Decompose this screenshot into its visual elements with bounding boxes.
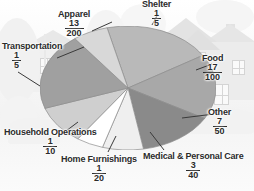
fraction-denominator: 5 xyxy=(152,18,161,28)
slice-fraction-shelter: 1 5 xyxy=(142,9,171,29)
fraction-denominator: 20 xyxy=(92,173,106,183)
fraction-numerator: 3 xyxy=(186,161,200,170)
fraction-denominator: 200 xyxy=(65,28,84,38)
fraction-numerator: 13 xyxy=(65,19,84,28)
slice-fraction-home-furnishings: 1 20 xyxy=(61,164,137,184)
slice-label-household-operations: Household Operations 1 10 xyxy=(4,128,97,157)
slice-label-food: Food 17 100 xyxy=(202,54,223,83)
slice-label-apparel: Apparel 13 200 xyxy=(58,10,90,39)
fraction-numerator: 1 xyxy=(43,137,57,146)
window-shape xyxy=(214,84,229,105)
slice-label-home-furnishings: Home Furnishings 1 20 xyxy=(61,155,137,184)
slice-label-medical: Medical & Personal Care 3 40 xyxy=(143,152,243,181)
fraction-numerator: 1 xyxy=(92,164,106,173)
fraction-numerator: 1 xyxy=(152,9,161,18)
fraction-denominator: 10 xyxy=(43,146,57,156)
fraction-denominator: 40 xyxy=(186,170,200,180)
slice-label-transportation-text: Transportation xyxy=(2,42,62,51)
fraction-numerator: 17 xyxy=(203,63,222,72)
fraction-denominator: 50 xyxy=(213,126,227,136)
slice-label-transportation: Transportation 1 5 xyxy=(2,42,62,71)
slice-fraction-transportation: 1 5 xyxy=(2,51,62,71)
slice-label-shelter: Shelter 1 5 xyxy=(142,0,171,29)
slice-fraction-other: 7 50 xyxy=(208,117,231,137)
chart-figure: Apparel 13 200 Shelter 1 5 Transportatio… xyxy=(0,0,254,191)
fraction-numerator: 7 xyxy=(213,117,227,126)
fraction-denominator: 100 xyxy=(203,72,222,82)
slice-fraction-medical: 3 40 xyxy=(143,161,243,181)
slice-fraction-apparel: 13 200 xyxy=(58,19,90,39)
slice-fraction-household-operations: 1 10 xyxy=(4,137,97,157)
window-shape xyxy=(232,60,245,75)
fraction-numerator: 1 xyxy=(12,51,21,60)
slice-fraction-food: 17 100 xyxy=(202,63,223,83)
fraction-denominator: 5 xyxy=(12,60,21,70)
slice-label-other: Other 7 50 xyxy=(208,108,231,137)
